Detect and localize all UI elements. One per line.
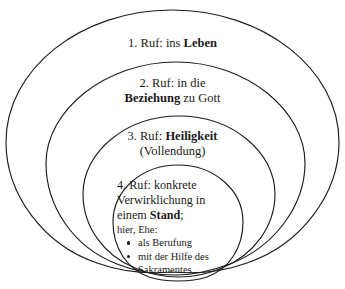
ring-3-line-2: (Vollendung): [0, 144, 345, 159]
ring-3-text: 3. Ruf:: [128, 129, 166, 143]
ring-4-line-3: einem Stand;: [117, 208, 247, 223]
ring-1-line-1: 1. Ruf: ins Leben: [0, 36, 345, 51]
ring-2-label: 2. Ruf: in die Beziehung zu Gott: [0, 76, 345, 106]
ring-1-label: 1. Ruf: ins Leben: [0, 36, 345, 51]
ring-4-line-1: 4. Ruf: konkrete: [117, 178, 247, 193]
ring-3-line-1: 3. Ruf: Heiligkeit: [0, 129, 345, 144]
ring-2-line-2: Beziehung zu Gott: [0, 91, 345, 106]
ring-4-keyword: Stand: [150, 208, 181, 222]
ring-4-line-2: Verwirklichung in: [117, 193, 247, 208]
ring-4-text-suffix: ;: [180, 208, 183, 222]
ring-2-text: zu Gott: [180, 91, 220, 105]
ring-4-text: einem: [117, 208, 150, 222]
bullet-2-text-cont: Sakramentes: [138, 263, 247, 276]
ring-4-label: 4. Ruf: konkrete Verwirklichung in einem…: [117, 178, 247, 276]
bullet-1-text: als Berufung: [138, 237, 192, 248]
ring-1-text: 1. Ruf: ins: [128, 36, 184, 50]
ring-2-line-1: 2. Ruf: in die: [0, 76, 345, 91]
list-item: mit der Hilfe desSakramentes: [127, 250, 247, 276]
ring-4-subline: hier, Ehe:: [117, 224, 247, 237]
ring-3-keyword: Heiligkeit: [165, 129, 217, 143]
ring-2-keyword: Beziehung: [125, 91, 181, 105]
ring-4-bullet-list: als Berufung mit der Hilfe desSakramente…: [117, 236, 247, 276]
nested-ellipse-diagram: 1. Ruf: ins Leben 2. Ruf: in die Beziehu…: [0, 0, 345, 289]
ring-1-keyword: Leben: [184, 36, 217, 50]
bullet-2-text: mit der Hilfe des: [138, 251, 209, 262]
ring-3-label: 3. Ruf: Heiligkeit (Vollendung): [0, 129, 345, 159]
list-item: als Berufung: [127, 236, 247, 249]
